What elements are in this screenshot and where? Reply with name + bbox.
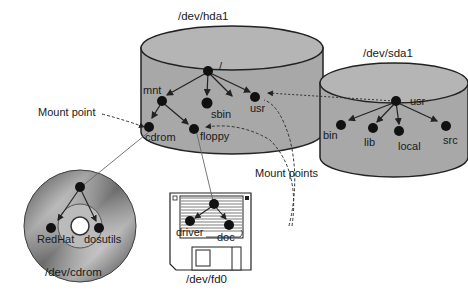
node-usr-hda1: usr — [250, 103, 265, 114]
filesystem-mount-diagram: /dev/hda1 /dev/sda1 /dev/cdrom /dev/fd0 … — [0, 0, 468, 298]
node-redhat: RedHat — [37, 234, 74, 245]
node-lib: lib — [364, 137, 375, 148]
node-root: / — [219, 61, 222, 72]
mount-points-annotation: Mount points — [255, 168, 318, 179]
cdrom-label: /dev/cdrom — [45, 267, 102, 279]
hda1-label: /dev/hda1 — [178, 11, 229, 23]
fd0-label: /dev/fd0 — [186, 274, 227, 286]
node-driver: driver — [176, 227, 204, 238]
mount-point-annotation: Mount point — [38, 107, 95, 118]
node-src: src — [443, 135, 458, 146]
sda1-cylinder — [320, 63, 468, 177]
node-doc: doc — [217, 232, 235, 243]
node-cdrom: cdrom — [145, 132, 176, 143]
sda1-label: /dev/sda1 — [363, 48, 413, 60]
node-mnt: mnt — [143, 85, 161, 96]
node-dosutils: dosutils — [84, 234, 121, 245]
node-floppy: floppy — [200, 131, 229, 142]
node-bin: bin — [323, 130, 338, 141]
node-sbin: sbin — [211, 109, 231, 120]
node-local: local — [398, 141, 421, 152]
node-usr-sda1: usr — [410, 96, 425, 107]
